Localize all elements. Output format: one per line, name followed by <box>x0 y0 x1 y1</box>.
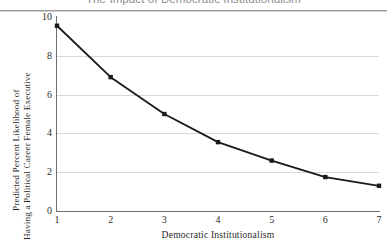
y-tick-label-6: 6 <box>30 89 52 100</box>
y-tick-label-2: 2 <box>30 166 52 177</box>
data-point-marker-3 <box>162 112 166 116</box>
series-line-chart <box>57 17 379 211</box>
series-line <box>57 26 379 186</box>
x-tick-label-4: 4 <box>206 214 230 225</box>
x-tick-label-7: 7 <box>367 214 387 225</box>
x-tick-label-5: 5 <box>260 214 284 225</box>
y-tick-label-8: 8 <box>30 50 52 61</box>
y-axis-tick-labels: 0246810 <box>26 0 52 245</box>
y-axis-title-line-1: Predicted Percent Likelihood of <box>11 89 21 211</box>
data-point-marker-2 <box>108 75 112 79</box>
data-point-marker-4 <box>216 140 220 144</box>
plot-area <box>57 17 379 211</box>
y-tick-label-4: 4 <box>30 127 52 138</box>
title-divider-rule-shadow <box>0 11 387 12</box>
data-point-marker-5 <box>269 158 273 162</box>
data-point-marker-7 <box>377 184 381 188</box>
x-tick-label-6: 6 <box>313 214 337 225</box>
data-point-marker-6 <box>323 175 327 179</box>
data-point-marker-1 <box>55 24 59 28</box>
x-axis-line <box>56 211 380 212</box>
y-tick-label-10: 10 <box>30 11 52 22</box>
x-axis-tick-labels: 1234567 <box>57 214 379 230</box>
chart-title: The Impact of Democratic Institutionalis… <box>0 0 387 5</box>
x-tick-label-1: 1 <box>45 214 69 225</box>
x-tick-label-3: 3 <box>152 214 176 225</box>
x-axis-title: Democratic Institutionalism <box>57 229 379 240</box>
chart-figure: The Impact of Democratic Institutionalis… <box>0 0 387 245</box>
x-tick-label-2: 2 <box>99 214 123 225</box>
